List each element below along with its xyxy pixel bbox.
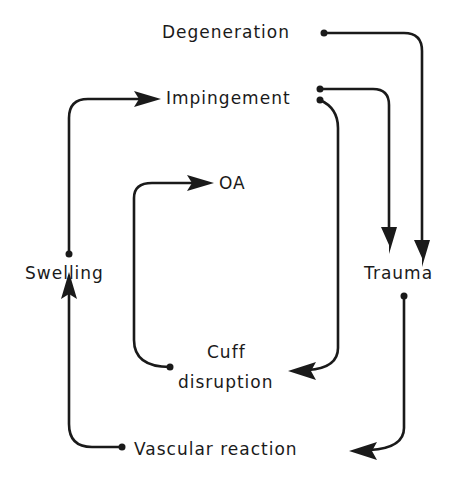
- edge-trauma-to-vascular-reaction: [349, 293, 408, 461]
- arrow-left-icon: [288, 362, 316, 380]
- edge-cuff-disruption-to-oa: [134, 175, 214, 371]
- edge-swelling-to-impingement: [66, 91, 162, 258]
- node-swelling: Swelling: [25, 263, 104, 283]
- node-impingement: Impingement: [166, 88, 291, 108]
- node-cuff-disruption-line1: Cuff: [207, 342, 246, 362]
- arrow-down-icon: [381, 227, 397, 254]
- node-cuff-disruption-line2: disruption: [178, 372, 274, 392]
- edge-impingement-to-trauma: [317, 86, 398, 255]
- node-trauma: Trauma: [363, 263, 433, 283]
- node-vascular-reaction: Vascular reaction: [134, 439, 298, 459]
- edge-vascular-reaction-to-swelling: [61, 272, 126, 451]
- edge-impingement-to-cuff-disruption: [288, 97, 338, 381]
- diagram-canvas: Degeneration Impingement OA Swelling Tra…: [0, 0, 469, 483]
- node-oa: OA: [219, 173, 246, 193]
- node-degeneration: Degeneration: [162, 22, 290, 42]
